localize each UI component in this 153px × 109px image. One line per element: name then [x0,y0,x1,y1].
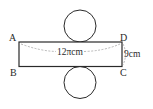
vertex-label-a: A [9,32,17,43]
length-label: 12πcm [57,47,84,57]
top-base-circle [64,10,96,42]
vertex-label-b: B [10,67,17,78]
cylinder-net-diagram: A B C D 12πcm 9cm [0,0,153,109]
bottom-base-circle [64,67,96,99]
height-label: 9cm [124,49,141,59]
vertex-label-c: C [120,67,127,78]
vertex-label-d: D [120,32,127,43]
